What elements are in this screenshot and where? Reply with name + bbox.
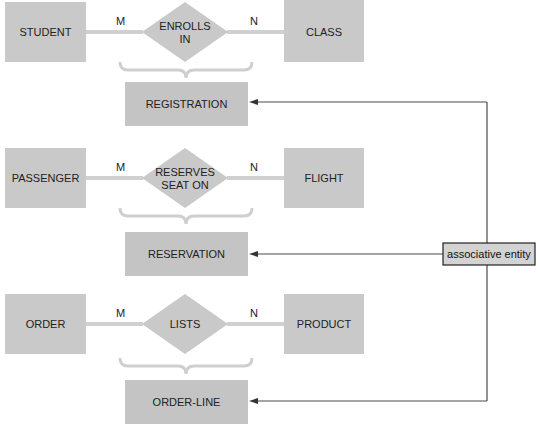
cardinality-n: N [250, 307, 258, 319]
cardinality-m: M [116, 307, 125, 319]
associative-entity-reservation-label: RESERVATION [148, 248, 225, 260]
arrow-head-icon [249, 251, 258, 257]
relationship-enrolls-in-line2: IN [180, 33, 191, 45]
entity-order-label: ORDER [26, 318, 66, 330]
relationship-reserves-seat-on-line1: RESERVES [155, 166, 215, 178]
relationship-reserves-seat-on-line2: SEAT ON [161, 179, 208, 191]
associative-entity-registration-label: REGISTRATION [146, 98, 228, 110]
row-order-line: ORDER LISTS M N PRODUCT ORDER-LINE [5, 294, 364, 424]
cardinality-m: M [116, 15, 125, 27]
associative-entity-order-line-label: ORDER-LINE [153, 396, 221, 408]
entity-flight-label: FLIGHT [304, 172, 343, 184]
callout-label: associative entity [447, 248, 531, 260]
relationship-enrolls-in-line1: ENROLLS [159, 20, 210, 32]
cardinality-n: N [250, 15, 258, 27]
entity-product-label: PRODUCT [297, 318, 352, 330]
entity-student-label: STUDENT [20, 26, 72, 38]
row-registration: STUDENT ENROLLS IN M N CLASS REGISTRATIO… [5, 0, 364, 126]
er-diagram: STUDENT ENROLLS IN M N CLASS REGISTRATIO… [0, 0, 538, 430]
callout-associative-entity: associative entity [443, 243, 535, 265]
brace-icon [120, 208, 252, 224]
brace-icon [120, 358, 252, 374]
relationship-reserves-seat-on[interactable] [142, 148, 228, 208]
relationship-enrolls-in[interactable] [142, 2, 228, 62]
arrow-head-icon [249, 398, 258, 404]
row-reservation: PASSENGER RESERVES SEAT ON M N FLIGHT RE… [5, 148, 364, 276]
cardinality-n: N [250, 161, 258, 173]
entity-class-label: CLASS [306, 26, 342, 38]
relationship-lists-label: LISTS [170, 318, 201, 330]
cardinality-m: M [116, 161, 125, 173]
arrow-head-icon [249, 99, 258, 105]
entity-passenger-label: PASSENGER [12, 172, 80, 184]
brace-icon [120, 62, 252, 78]
